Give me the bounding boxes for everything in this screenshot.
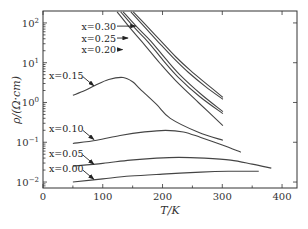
- annotation-label: x=0.00: [49, 163, 83, 174]
- annotation-label: x=0.15: [49, 70, 83, 81]
- y-tick-label: 102: [22, 17, 39, 29]
- annotation-arrow: [83, 77, 94, 86]
- series-line-x-0-10: [73, 130, 241, 152]
- x-tick-label: 100: [93, 191, 112, 202]
- x-tick-label: 300: [213, 191, 232, 202]
- annotation-arrow: [83, 155, 94, 164]
- annotation-arrow: [83, 130, 94, 139]
- series-line-x-0-30: [133, 12, 223, 98]
- annotation-label: x=0.05: [49, 148, 83, 159]
- series-line-x-0-25: [123, 12, 223, 112]
- x-axis-label: T/K: [160, 204, 180, 217]
- y-tick-label: 101: [22, 57, 39, 69]
- y-tick-label: 10−2: [16, 176, 39, 188]
- y-tick-label: 10−1: [16, 136, 39, 148]
- annotation-arrow: [83, 170, 94, 179]
- annotation-label: x=0.30: [82, 21, 116, 32]
- annotation-label: x=0.25: [82, 33, 116, 44]
- series-line-x-0-05: [73, 157, 271, 168]
- annotations: x=0.30x=0.25x=0.20x=0.15x=0.10x=0.05x=0.…: [49, 21, 136, 180]
- annotation-label: x=0.20: [82, 44, 116, 55]
- resistivity-chart: 010020030040010210110010−110−2 x=0.30x=0…: [0, 0, 308, 229]
- y-axis-label: ρ/(Ω·cm): [10, 76, 23, 125]
- x-tick-label: 0: [40, 191, 46, 202]
- y-tick-label: 100: [22, 96, 39, 108]
- x-tick-label: 400: [273, 191, 292, 202]
- series-line-x-0-00: [73, 171, 259, 182]
- series-line-x-0-15: [73, 77, 223, 140]
- annotation-label: x=0.10: [49, 123, 83, 134]
- series-line-x-0-25b: [121, 12, 223, 114]
- x-tick-label: 200: [153, 191, 172, 202]
